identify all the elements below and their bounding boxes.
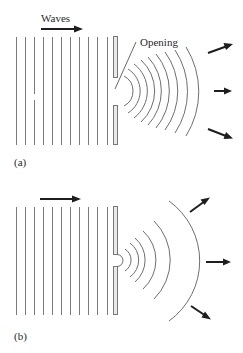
barrier-a <box>114 37 118 145</box>
panel-b-tag: (b) <box>14 330 27 343</box>
outgoing-arrow-up-b-icon <box>190 198 210 213</box>
opening-label: Opening <box>140 36 178 48</box>
plane-waves-b <box>17 207 108 315</box>
incident-arrow-icon <box>41 26 83 33</box>
diffracted-waves-a <box>124 47 199 136</box>
panel-a-tag: (a) <box>14 156 27 169</box>
waves-label: Waves <box>41 12 70 24</box>
outgoing-arrow-up-a-icon <box>208 43 233 53</box>
panel-a: Waves Opening <box>14 12 233 169</box>
outgoing-arrow-down-b-icon <box>191 306 211 320</box>
outgoing-arrow-right-a-icon <box>214 88 232 95</box>
diffracted-waves-b <box>125 201 200 321</box>
barrier-b <box>114 207 124 315</box>
incident-arrow-b-icon <box>40 196 81 203</box>
plane-waves <box>17 37 108 145</box>
outgoing-arrow-down-a-icon <box>208 129 233 139</box>
outgoing-arrow-right-b-icon <box>206 259 231 266</box>
diffraction-figure: Waves Opening <box>0 0 243 353</box>
opening-leader-line <box>115 42 136 89</box>
panel-b: (b) <box>14 196 231 344</box>
